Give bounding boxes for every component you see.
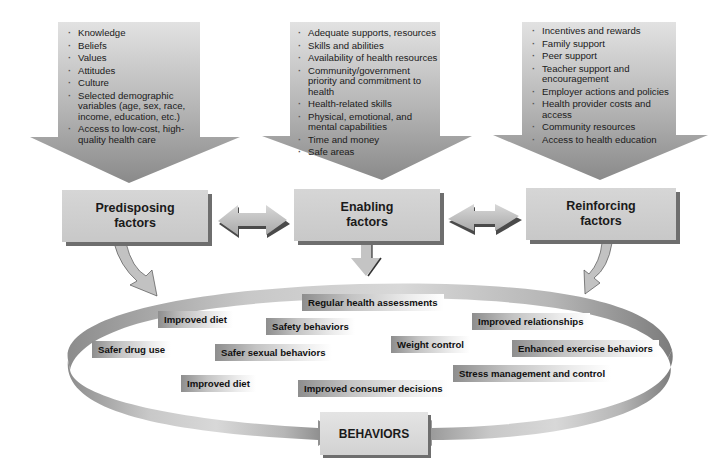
enabling-to-behaviors-arrow <box>351 243 381 276</box>
list-item: Peer support <box>532 51 678 61</box>
behavior-tag: Improved consumer decisions <box>298 380 449 397</box>
behavior-tag: Stress management and control <box>453 365 611 382</box>
list-item: Culture <box>68 78 196 88</box>
reinforcing-items-list: Incentives and rewards Family support Pe… <box>532 26 678 148</box>
list-item: Health-related skills <box>298 99 438 109</box>
list-item: Access to low-cost, high-quality health … <box>68 124 196 145</box>
list-item: Adequate supports, resources <box>298 28 438 38</box>
list-item: Physical, emotional, and mental capabili… <box>298 112 438 133</box>
reinforcing-to-behaviors-arrow <box>584 243 612 294</box>
predisposing-items-list: Knowledge Beliefs Values Attitudes Cultu… <box>68 28 196 147</box>
behavior-tag: Enhanced exercise behaviors <box>512 340 659 357</box>
predisposing-to-behaviors-arrow <box>114 243 157 296</box>
list-item: Community/government priority and commit… <box>298 66 438 97</box>
list-item: Incentives and rewards <box>532 26 678 36</box>
list-item: Health provider costs and access <box>532 99 678 120</box>
behavior-tag: Weight control <box>391 336 470 353</box>
list-item: Time and money <box>298 135 438 145</box>
list-item: Access to health education <box>532 135 678 145</box>
behavior-tag: Improved diet <box>158 311 233 328</box>
list-item: Knowledge <box>68 28 196 38</box>
behavior-tag: Safer drug use <box>92 341 171 358</box>
behavior-tag: Regular health assessments <box>302 294 444 311</box>
behavior-tag: Safer sexual behaviors <box>215 344 332 361</box>
predisposing-factors-box: Predisposing factors <box>62 190 208 242</box>
list-item: Safe areas <box>298 147 438 157</box>
reinforcing-factors-box: Reinforcing factors <box>526 188 676 240</box>
predisposing-enabling-double-arrow <box>218 205 290 238</box>
behavior-tag: Improved diet <box>181 375 256 392</box>
enabling-items-list: Adequate supports, resources Skills and … <box>298 28 438 160</box>
list-item: Employer actions and policies <box>532 87 678 97</box>
list-item: Family support <box>532 39 678 49</box>
list-item: Beliefs <box>68 41 196 51</box>
list-item: Selected demographic variables (age, sex… <box>68 91 196 122</box>
list-item: Values <box>68 53 196 63</box>
list-item: Availability of health resources <box>298 53 438 63</box>
behavior-tag: Improved relationships <box>472 313 590 330</box>
list-item: Attitudes <box>68 66 196 76</box>
behavior-tag: Safety behaviors <box>266 318 355 335</box>
list-item: Teacher support and encouragement <box>532 64 678 85</box>
list-item: Skills and abilities <box>298 41 438 51</box>
enabling-factors-box: Enabling factors <box>294 189 440 241</box>
list-item: Community resources <box>532 122 678 132</box>
behaviors-outcome-box: BEHAVIORS <box>320 412 428 455</box>
enabling-reinforcing-double-arrow <box>448 204 522 235</box>
